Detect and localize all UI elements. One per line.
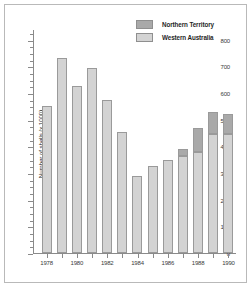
x-tick-label: 1986 (162, 260, 175, 266)
y-tick-major (28, 254, 33, 255)
y-tick-major (28, 147, 33, 148)
y-tick-minor (30, 187, 33, 188)
y-tick-minor (30, 234, 33, 235)
y-tick-minor (30, 47, 33, 48)
y-tick-minor (30, 207, 33, 208)
x-tick (183, 254, 184, 258)
bar-segment-western-australia (208, 134, 218, 253)
x-tick-label: 1980 (71, 260, 84, 266)
bar-segment-northern-territory (208, 112, 218, 134)
x-axis-line (33, 253, 236, 254)
x-tick (138, 254, 139, 258)
y-tick-major (28, 41, 33, 42)
y-tick-minor (30, 114, 33, 115)
y-tick-minor (30, 127, 33, 128)
x-tick-label: 1984 (131, 260, 144, 266)
x-tick (122, 254, 123, 258)
x-tick (198, 254, 199, 258)
y-tick-minor (30, 61, 33, 62)
y-tick-minor (30, 214, 33, 215)
x-tick (92, 254, 93, 258)
x-tick (47, 254, 48, 258)
x-tick (153, 254, 154, 258)
x-tick (213, 254, 214, 258)
bar-group (57, 29, 67, 253)
bar-group (87, 29, 97, 253)
y-tick-minor (30, 54, 33, 55)
x-tick (62, 254, 63, 258)
x-tick-label: 1988 (192, 260, 205, 266)
x-tick (168, 254, 169, 258)
y-tick-minor (30, 154, 33, 155)
y-tick-minor (30, 34, 33, 35)
y-tick-major (28, 227, 33, 228)
bar-segment-western-australia (223, 134, 233, 253)
bar-group (72, 29, 82, 253)
bar-segment-western-australia (42, 106, 52, 253)
bar-segment-western-australia (102, 100, 112, 253)
y-tick-major (28, 94, 33, 95)
y-axis-line (33, 30, 34, 254)
bar-segment-western-australia (132, 176, 142, 253)
legend-swatch-northern-territory (136, 20, 153, 29)
y-tick-minor (30, 107, 33, 108)
y-tick-minor (30, 81, 33, 82)
y-tick-minor (30, 167, 33, 168)
bar-segment-northern-territory (178, 149, 188, 156)
x-tick (228, 254, 229, 258)
bar-group (148, 29, 158, 253)
bar-group (223, 29, 233, 253)
y-tick-minor (30, 141, 33, 142)
y-tick-major (28, 67, 33, 68)
y-tick-minor (30, 87, 33, 88)
y-tick-minor (30, 101, 33, 102)
bar-group (163, 29, 173, 253)
bar-segment-western-australia (193, 152, 203, 253)
bar-segment-western-australia (117, 132, 127, 253)
x-tick-label: 1978 (40, 260, 53, 266)
bar-group (42, 29, 52, 253)
y-tick-minor (30, 194, 33, 195)
y-tick-major (28, 121, 33, 122)
bar-group (117, 29, 127, 253)
bar-segment-western-australia (57, 58, 67, 253)
y-tick-minor (30, 247, 33, 248)
y-tick-major (28, 201, 33, 202)
bar-segment-northern-territory (193, 128, 203, 152)
y-tick-minor (30, 161, 33, 162)
y-tick-minor (30, 221, 33, 222)
x-tick-label: 1982 (101, 260, 114, 266)
bar-segment-western-australia (178, 156, 188, 253)
bar-segment-western-australia (163, 160, 173, 253)
legend-label-northern-territory: Northern Territory (162, 21, 214, 28)
y-tick-minor (30, 241, 33, 242)
bar-group (193, 29, 203, 253)
plot-area: 0100200300400500600700800 19781980198219… (33, 30, 236, 254)
y-tick-minor (30, 134, 33, 135)
x-tick-label: 1990 (222, 260, 235, 266)
y-tick-minor (30, 74, 33, 75)
bar-segment-western-australia (72, 86, 82, 253)
x-tick (77, 254, 78, 258)
bar-group (102, 29, 112, 253)
bar-segment-western-australia (148, 166, 158, 253)
chart-figure: Number of shells (x 1000) Northern Terri… (0, 0, 251, 287)
y-tick-major (28, 174, 33, 175)
x-tick (107, 254, 108, 258)
bar-group (208, 29, 218, 253)
y-tick-minor (30, 181, 33, 182)
bar-group (132, 29, 142, 253)
bar-group (178, 29, 188, 253)
bar-segment-northern-territory (223, 114, 233, 134)
bar-segment-western-australia (87, 68, 97, 253)
